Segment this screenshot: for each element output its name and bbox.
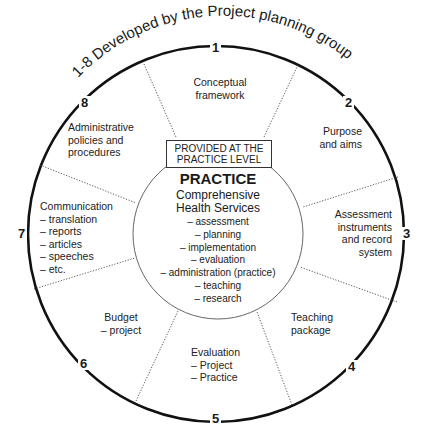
label-line: policies and [68, 134, 163, 147]
service-item: – administration (practice) [133, 267, 303, 280]
label-line: and record [310, 233, 392, 246]
box-line-2: PRACTICE LEVEL [171, 154, 267, 165]
label-line: – articles [40, 238, 135, 251]
segment-number-5: 5 [210, 412, 221, 425]
segment-4-teaching-package: Teaching package [291, 311, 361, 336]
segment-number-2: 2 [343, 96, 354, 109]
segment-5-evaluation: Evaluation – Project – Practice [191, 346, 271, 384]
segment-6-budget: Budget – project [86, 311, 156, 336]
service-item: – research [133, 293, 303, 306]
subheading-line-2: Health Services [133, 202, 303, 215]
label-line: – Practice [191, 371, 271, 384]
label-line: procedures [68, 146, 163, 159]
label-line: – translation [40, 213, 135, 226]
segment-number-6: 6 [78, 357, 89, 370]
service-item: – assessment [133, 216, 303, 229]
segment-number-1: 1 [210, 41, 221, 54]
segment-8-administrative-policies: Administrative policies and procedures [68, 121, 163, 159]
label-line: Budget [86, 311, 156, 324]
label-line: Communication [40, 200, 135, 213]
label-line: Assessment [310, 208, 392, 221]
label-line: package [291, 324, 361, 337]
service-item: – teaching [133, 280, 303, 293]
label-line: instruments [310, 221, 392, 234]
segment-1-conceptual-framework: Conceptual framework [175, 76, 265, 101]
box-line-1: PROVIDED AT THE [171, 143, 267, 154]
segment-number-8: 8 [79, 96, 90, 109]
service-item: – evaluation [133, 254, 303, 267]
label-line: Teaching [291, 311, 361, 324]
label-line: Evaluation [191, 346, 271, 359]
label-line: Conceptual [175, 76, 265, 89]
service-item: – planning [133, 229, 303, 242]
service-item: – implementation [133, 242, 303, 255]
practice-level-box: PROVIDED AT THE PRACTICE LEVEL [166, 140, 272, 168]
label-line: – speeches [40, 250, 135, 263]
label-line: – etc. [40, 263, 135, 276]
label-line: Administrative [68, 121, 163, 134]
label-line: system [310, 246, 392, 259]
label-line: – project [86, 324, 156, 337]
label-line: – Project [191, 359, 271, 372]
label-line: framework [175, 89, 265, 102]
segment-number-3: 3 [401, 227, 412, 240]
segment-3-assessment-instruments: Assessment instruments and record system [310, 208, 392, 258]
label-line: and aims [300, 138, 362, 151]
segment-7-communication: Communication – translation – reports – … [40, 200, 135, 275]
segment-number-4: 4 [346, 360, 357, 373]
label-line: – reports [40, 225, 135, 238]
comprehensive-health-services: Comprehensive Health Services [133, 189, 303, 215]
segment-number-7: 7 [16, 227, 27, 240]
practice-heading: PRACTICE [133, 170, 303, 187]
service-list: – assessment – planning – implementation… [133, 216, 303, 306]
segment-2-purpose-and-aims: Purpose and aims [300, 125, 362, 150]
label-line: Purpose [300, 125, 362, 138]
